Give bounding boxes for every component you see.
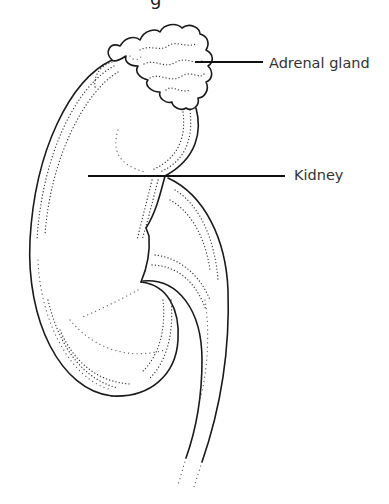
label-kidney: Kidney — [294, 168, 343, 183]
kidney-shading — [37, 66, 218, 400]
adrenal-gland-shape — [95, 25, 212, 110]
kidney-adrenal-diagram — [0, 0, 389, 504]
kidney-outline — [30, 60, 199, 396]
ureter — [143, 178, 228, 490]
label-adrenal-gland: Adrenal gland — [269, 56, 370, 71]
